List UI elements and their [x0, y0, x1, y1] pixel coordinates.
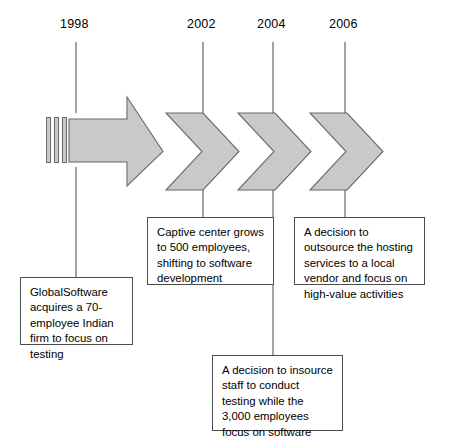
chevron-2002 [166, 113, 239, 190]
note-box-2006: A decision to outsource the hosting serv… [294, 217, 425, 285]
timeline-diagram: 1998 2002 2004 2006 GlobalSoftware acqui… [0, 0, 451, 440]
arrow-tail-bar-2 [55, 118, 59, 163]
arrow-tail-bar-1 [47, 118, 51, 163]
note-box-2002: Captive center grows to 500 employees, s… [147, 217, 274, 285]
year-label-1998: 1998 [60, 17, 89, 31]
note-box-2004: A decision to insource staff to conduct … [212, 355, 343, 431]
chevron-2004 [238, 113, 311, 190]
arrow-tail-bar-3 [63, 118, 67, 163]
year-label-2002: 2002 [187, 17, 216, 31]
arrow-main-1998 [69, 97, 163, 186]
year-label-2006: 2006 [329, 17, 358, 31]
year-label-2004: 2004 [257, 17, 286, 31]
chevron-2006 [310, 113, 383, 190]
note-box-1998: GlobalSoftware acquires a 70-employee In… [20, 277, 133, 345]
